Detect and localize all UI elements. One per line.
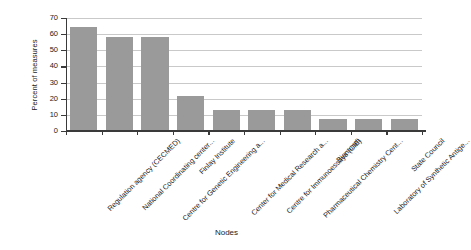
y-tick-mark [61, 83, 66, 84]
y-tick-mark [61, 99, 66, 100]
bar[interactable] [177, 96, 204, 132]
y-tick-label: 0 [38, 127, 58, 135]
x-category-label: Biomundi [335, 137, 362, 164]
x-tick-mark [173, 131, 174, 135]
x-tick-mark [351, 131, 352, 135]
x-axis-line [66, 130, 426, 132]
y-tick-label: 10 [38, 111, 58, 119]
bar[interactable] [248, 110, 275, 131]
y-tick-mark [61, 34, 66, 35]
x-tick-mark [66, 131, 67, 135]
y-tick-label: 70 [38, 14, 58, 22]
x-tick-mark [244, 131, 245, 135]
y-axis-title: Percent of measures [30, 25, 42, 125]
x-tick-mark [208, 131, 209, 135]
bar[interactable] [213, 110, 240, 131]
y-tick-label: 40 [38, 62, 58, 70]
y-tick-label: 50 [38, 46, 58, 54]
x-axis-title: Nodes [0, 228, 453, 237]
x-tick-mark [422, 131, 423, 135]
bar[interactable] [106, 37, 133, 131]
bar[interactable] [141, 37, 168, 131]
y-axis-line [66, 18, 67, 131]
x-tick-mark [280, 131, 281, 135]
bar[interactable] [70, 27, 97, 131]
y-tick-mark [61, 18, 66, 19]
x-tick-mark [102, 131, 103, 135]
bar[interactable] [284, 110, 311, 131]
plot-area [66, 18, 422, 131]
y-tick-mark [61, 115, 66, 116]
x-tick-mark [386, 131, 387, 135]
x-tick-mark [315, 131, 316, 135]
gridline [66, 18, 422, 19]
y-tick-label: 30 [38, 79, 58, 87]
gridline [66, 34, 422, 35]
x-tick-mark [137, 131, 138, 135]
y-tick-label: 20 [38, 95, 58, 103]
y-tick-label: 60 [38, 30, 58, 38]
y-tick-mark [61, 50, 66, 51]
y-tick-mark [61, 66, 66, 67]
